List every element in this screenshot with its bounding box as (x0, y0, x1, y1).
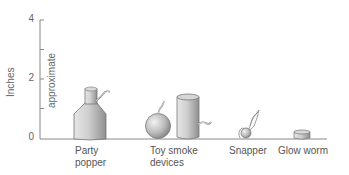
label-line-2: devices (150, 157, 198, 169)
y-tick-2: 2 (24, 72, 34, 83)
glow-worm-icon (294, 130, 310, 139)
label-line-2: popper (75, 157, 106, 169)
label-toy-smoke-devices: Toy smoke devices (150, 145, 198, 169)
label-party-popper: Party popper (75, 145, 106, 169)
smoke-cylinder-icon (177, 94, 211, 139)
label-line-1: Snapper (229, 145, 267, 157)
y-tick-0: 0 (24, 131, 34, 142)
label-line-1: Toy smoke (150, 145, 198, 157)
y-axis (40, 20, 44, 139)
label-line-1: Glow worm (278, 145, 328, 157)
y-axis-sublabel: approximate (46, 53, 57, 108)
label-line-1: Party (75, 145, 106, 157)
label-glow-worm: Glow worm (278, 145, 328, 157)
smoke-ball-icon (146, 101, 171, 139)
y-tick-4: 4 (24, 13, 34, 24)
party-popper-icon (74, 87, 110, 140)
y-axis-label: Inches (5, 68, 16, 97)
label-snapper: Snapper (229, 145, 267, 157)
snapper-icon (239, 110, 259, 138)
